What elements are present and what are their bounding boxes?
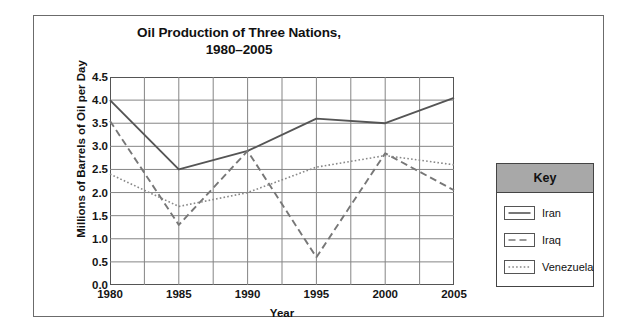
- legend-swatch-dotted-line-icon: [504, 260, 535, 274]
- series-line-iran: [110, 98, 454, 170]
- legend-swatch-solid-line-icon: [504, 206, 535, 220]
- x-axis-title: Year: [110, 307, 454, 319]
- y-tick-label: 1.5: [74, 210, 108, 222]
- chart-figure-frame: Oil Production of Three Nations, 1980–20…: [33, 15, 604, 317]
- legend-swatch-dashed-line-icon: [504, 233, 535, 247]
- plot-wrapper: [110, 77, 454, 285]
- y-tick-label: 2.0: [74, 187, 108, 199]
- legend-item-iraq[interactable]: Iraq: [504, 226, 593, 253]
- legend-items: IranIraqVenezuela: [497, 193, 593, 280]
- y-tick-label: 3.5: [74, 117, 108, 129]
- legend-item-label: Iran: [542, 207, 561, 219]
- y-tick-label: 1.0: [74, 233, 108, 245]
- series-line-iraq: [110, 121, 454, 257]
- legend-header-label: Key: [534, 171, 557, 185]
- legend-header: Key: [497, 164, 593, 193]
- x-tick-label: 2000: [362, 288, 408, 300]
- x-tick-label: 1990: [225, 288, 271, 300]
- y-axis-title-container: Millions of Barrels of Oil per Day: [56, 71, 74, 291]
- x-tick-label: 1985: [156, 288, 202, 300]
- y-tick-label: 0.5: [74, 256, 108, 268]
- legend-item-iran[interactable]: Iran: [504, 199, 593, 226]
- x-axis-tick-labels: 198019851990199520002005: [110, 288, 454, 304]
- x-tick-label: 2005: [431, 288, 477, 300]
- y-tick-label: 3.0: [74, 140, 108, 152]
- x-tick-label: 1995: [293, 288, 339, 300]
- data-series-lines: [110, 77, 454, 285]
- legend-item-label: Iraq: [542, 234, 561, 246]
- chart-title-line-1: Oil Production of Three Nations,: [64, 24, 414, 41]
- x-tick-label: 1980: [87, 288, 133, 300]
- legend-key-box: Key IranIraqVenezuela: [496, 163, 594, 287]
- chart-title: Oil Production of Three Nations, 1980–20…: [64, 24, 414, 58]
- y-axis-tick-labels: 4.54.03.53.02.52.01.51.00.50.0: [74, 77, 108, 285]
- y-tick-label: 2.5: [74, 163, 108, 175]
- legend-item-label: Venezuela: [542, 261, 593, 273]
- y-tick-label: 4.5: [74, 71, 108, 83]
- chart-title-line-2: 1980–2005: [64, 41, 414, 58]
- legend-item-venezuela[interactable]: Venezuela: [504, 253, 593, 280]
- y-tick-label: 4.0: [74, 94, 108, 106]
